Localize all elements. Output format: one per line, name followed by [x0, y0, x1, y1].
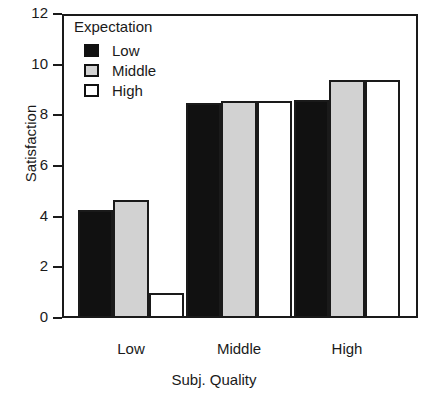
- bar-middle-high: [257, 101, 292, 318]
- legend-swatch-icon: [84, 44, 99, 57]
- y-axis-title: Satisfaction: [22, 54, 39, 234]
- y-tick-mark: [53, 64, 62, 66]
- legend-item-high: High: [84, 80, 202, 100]
- x-tick-label-high: High: [332, 340, 363, 357]
- bar-low-middle: [113, 200, 148, 318]
- legend-swatch-icon: [84, 84, 99, 97]
- bar-high-high: [365, 80, 400, 318]
- x-axis-title: Subj. Quality: [0, 371, 428, 388]
- y-tick-mark: [53, 266, 62, 268]
- y-tick-label: 4: [40, 207, 48, 224]
- bar-low-low: [78, 210, 113, 318]
- y-tick-label: 0: [40, 308, 48, 325]
- y-tick-label: 12: [31, 4, 48, 21]
- bar-middle-low: [186, 103, 221, 318]
- bar-high-low: [294, 100, 329, 318]
- y-tick-mark: [53, 165, 62, 167]
- bar-middle-middle: [221, 101, 256, 318]
- x-tick-label-low: Low: [117, 340, 145, 357]
- bar-low-high: [149, 293, 184, 318]
- legend-item-label: High: [112, 83, 143, 98]
- y-tick-mark: [53, 216, 62, 218]
- bar-high-middle: [329, 80, 364, 318]
- x-tick-label-middle: Middle: [217, 340, 261, 357]
- y-tick-label: 10: [31, 55, 48, 72]
- legend-entries: LowMiddleHigh: [72, 40, 202, 100]
- y-tick-label: 8: [40, 105, 48, 122]
- legend-title: Expectation: [74, 18, 202, 35]
- legend-item-label: Middle: [112, 63, 156, 78]
- bar-chart-figure: Satisfaction 024681012 LowMiddleHigh Sub…: [0, 0, 428, 411]
- legend: Expectation LowMiddleHigh: [72, 18, 202, 100]
- y-tick-label: 2: [40, 257, 48, 274]
- legend-item-label: Low: [112, 43, 140, 58]
- legend-swatch-icon: [84, 64, 99, 77]
- legend-item-low: Low: [84, 40, 202, 60]
- y-tick-mark: [53, 13, 62, 15]
- legend-item-middle: Middle: [84, 60, 202, 80]
- y-tick-mark: [53, 114, 62, 116]
- y-tick-mark: [53, 317, 62, 319]
- y-tick-label: 6: [40, 156, 48, 173]
